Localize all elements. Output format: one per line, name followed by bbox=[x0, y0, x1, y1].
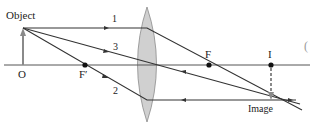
ray-1 bbox=[23, 28, 302, 110]
ray-2-arrow bbox=[102, 74, 109, 78]
origin-label: O bbox=[18, 69, 26, 80]
ray-1-label: 1 bbox=[112, 14, 117, 24]
ray-2-arrow-2 bbox=[181, 98, 186, 102]
focal-near-label: F′ bbox=[79, 69, 88, 80]
ray-3 bbox=[23, 28, 300, 104]
focal-point-far bbox=[206, 62, 211, 67]
ray-1-arrow bbox=[104, 26, 109, 30]
ray-2-label: 2 bbox=[113, 86, 118, 96]
ray-3-label: 3 bbox=[113, 42, 118, 52]
image-label: Image bbox=[248, 104, 273, 114]
lens-ray-diagram: Object O F′ F I Image 1 3 2 ( bbox=[0, 0, 310, 133]
focal-far-label: F bbox=[205, 49, 211, 60]
object-label: Object bbox=[6, 10, 35, 21]
image-point-label: I bbox=[268, 49, 272, 60]
image-point bbox=[268, 62, 273, 67]
edge-glyph: ( bbox=[304, 40, 308, 52]
focal-point-near bbox=[82, 62, 87, 67]
